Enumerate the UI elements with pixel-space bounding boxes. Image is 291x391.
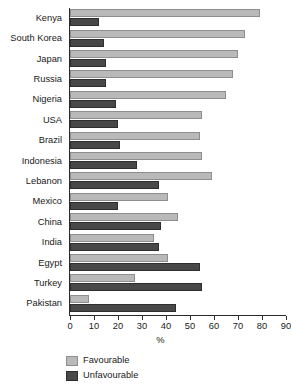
bar-unfavourable [70, 202, 118, 210]
tick-label: 60 [209, 321, 219, 332]
tick-label: 40 [161, 321, 171, 332]
category-label: Egypt [0, 258, 62, 268]
tick-mark [118, 316, 119, 320]
legend-item-unfavourable: Unfavourable [66, 368, 138, 383]
bar-favourable [70, 91, 226, 99]
bar-unfavourable [70, 181, 159, 189]
category-label: Turkey [0, 278, 62, 288]
category-label: Kenya [0, 13, 62, 23]
tick-mark [70, 316, 71, 320]
bar-unfavourable [70, 263, 200, 271]
bar-unfavourable [70, 304, 176, 312]
category-label: Japan [0, 54, 62, 64]
bar-row [70, 192, 286, 212]
bar-favourable [70, 234, 154, 242]
category-label: China [0, 217, 62, 227]
bar-unfavourable [70, 120, 118, 128]
bar-row [70, 49, 286, 69]
tick-label: 0 [67, 321, 72, 332]
bar-unfavourable [70, 39, 104, 47]
bar-row [70, 28, 286, 48]
bar-row [70, 273, 286, 293]
bar-favourable [70, 152, 202, 160]
tick-mark [262, 316, 263, 320]
tick-mark [190, 316, 191, 320]
bar-unfavourable [70, 18, 99, 26]
bar-favourable [70, 9, 260, 17]
tick-label: 20 [113, 321, 123, 332]
tick-label: 80 [257, 321, 267, 332]
category-label: USA [0, 115, 62, 125]
tick-label: 10 [89, 321, 99, 332]
category-label: Brazil [0, 135, 62, 145]
bar-favourable [70, 274, 135, 282]
tick-mark [214, 316, 215, 320]
legend-item-favourable: Favourable [66, 353, 138, 368]
bar-row [70, 253, 286, 273]
bar-favourable [70, 70, 233, 78]
bar-favourable [70, 50, 238, 58]
x-axis-title: % [0, 335, 291, 345]
bar-row [70, 212, 286, 232]
category-label: Indonesia [0, 156, 62, 166]
bar-favourable [70, 172, 212, 180]
legend-swatch-unfavourable-icon [66, 371, 78, 381]
plot-area [70, 8, 286, 314]
category-label: India [0, 237, 62, 247]
bar-unfavourable [70, 222, 161, 230]
bar-row [70, 90, 286, 110]
bar-row [70, 294, 286, 314]
bar-unfavourable [70, 141, 120, 149]
tick-mark [286, 316, 287, 320]
legend-swatch-favourable-icon [66, 356, 78, 366]
x-axis-title-text: % [156, 335, 164, 345]
bar-rows [70, 8, 286, 314]
bar-favourable [70, 132, 200, 140]
category-label: Russia [0, 74, 62, 84]
bar-unfavourable [70, 79, 106, 87]
legend-label-favourable: Favourable [83, 355, 130, 366]
tick-mark [142, 316, 143, 320]
tick-mark [238, 316, 239, 320]
tick-mark [166, 316, 167, 320]
bar-unfavourable [70, 243, 159, 251]
bar-row [70, 151, 286, 171]
category-label: Lebanon [0, 176, 62, 186]
category-axis-labels: KenyaSouth KoreaJapanRussiaNigeriaUSABra… [0, 8, 66, 314]
bar-favourable [70, 295, 89, 303]
bar-favourable [70, 30, 245, 38]
category-label: Mexico [0, 196, 62, 206]
bar-unfavourable [70, 59, 106, 67]
bar-row [70, 130, 286, 150]
bar-row [70, 110, 286, 130]
bar-row [70, 171, 286, 191]
bar-favourable [70, 193, 168, 201]
category-label: Nigeria [0, 94, 62, 104]
tick-label: 70 [233, 321, 243, 332]
category-label: South Korea [0, 33, 62, 43]
tick-label: 30 [137, 321, 147, 332]
bar-row [70, 232, 286, 252]
bar-favourable [70, 254, 168, 262]
bar-unfavourable [70, 100, 116, 108]
bar-unfavourable [70, 283, 202, 291]
tick-mark [94, 316, 95, 320]
bar-favourable [70, 111, 202, 119]
category-label: Pakistan [0, 298, 62, 308]
chart-legend: Favourable Unfavourable [66, 353, 138, 383]
bar-chart: KenyaSouth KoreaJapanRussiaNigeriaUSABra… [0, 0, 291, 391]
bar-row [70, 69, 286, 89]
bar-favourable [70, 213, 178, 221]
bar-unfavourable [70, 161, 137, 169]
tick-label: 90 [281, 321, 291, 332]
bar-row [70, 8, 286, 28]
legend-label-unfavourable: Unfavourable [83, 370, 138, 381]
tick-label: 50 [185, 321, 195, 332]
